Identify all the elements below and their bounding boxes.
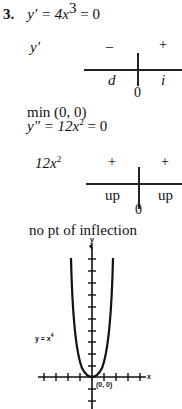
curve-label: y = x4 xyxy=(35,335,54,342)
vertex-point xyxy=(90,375,93,378)
y-axis-label: y xyxy=(90,236,94,243)
x-axis-label: x xyxy=(147,373,151,380)
graph-canvas xyxy=(0,0,182,409)
vertex-label: (0, 0) xyxy=(96,381,112,388)
